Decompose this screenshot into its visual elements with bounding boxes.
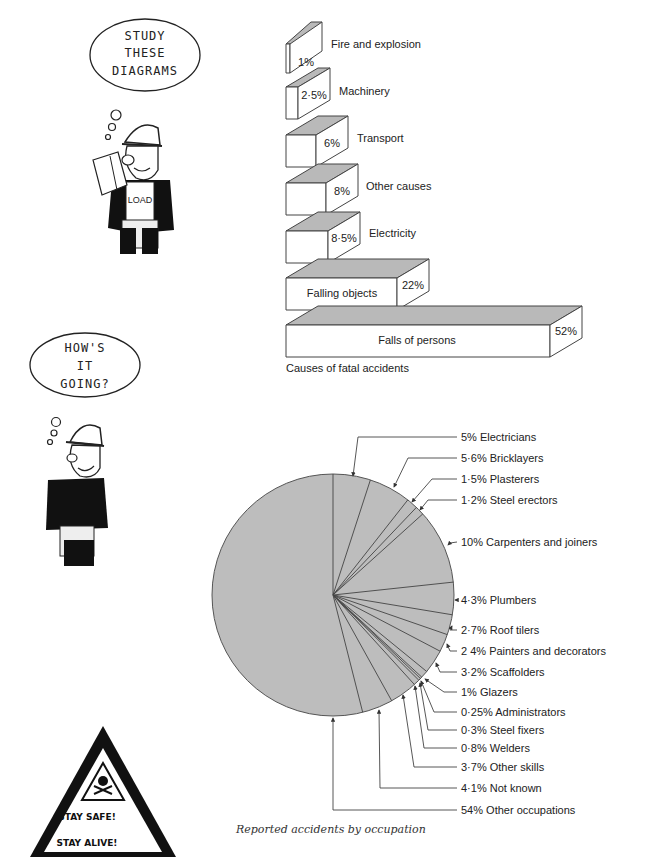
pie-label-plumbers: 4·3% Plumbers	[461, 594, 537, 606]
pie-label-plasterers: 1·5% Plasterers	[461, 473, 540, 485]
bar-value-electricity: 8·5%	[331, 232, 357, 244]
bar-value-machinery: 2·5%	[301, 89, 327, 101]
bar-value-falling-objects: 22%	[402, 279, 424, 291]
pie-label-other-skills: 3·7% Other skills	[461, 761, 545, 773]
bar-label-fire: Fire and explosion	[331, 38, 421, 50]
pie-label-steel-fixers: 0·3% Steel fixers	[461, 724, 545, 736]
bar-label-falls-of-persons: Falls of persons	[378, 334, 456, 346]
pie-label-not-known: 4·1% Not known	[461, 782, 542, 794]
bar-value-transport: 6%	[324, 137, 340, 149]
bar-label-falling-objects: Falling objects	[307, 287, 378, 299]
pie-label-other-occupations: 54% Other occupations	[461, 804, 576, 816]
pie-label-welders: 0·8% Welders	[461, 742, 530, 754]
bar-label-transport: Transport	[357, 132, 404, 144]
bar-value-falls-of-persons: 52%	[555, 325, 577, 337]
pie-label-scaffolders: 3·2% Scaffolders	[461, 666, 545, 678]
pie-label-bricklayers: 5·6% Bricklayers	[461, 452, 544, 464]
bar-label-machinery: Machinery	[339, 85, 390, 97]
pie-label-steel-erectors: 1·2% Steel erectors	[461, 494, 558, 506]
bar-chart-fatal-accidents: 1% 2·5% 6% 8% 8·5% 22% 52% Fire and expl…	[0, 0, 666, 400]
pie-label-painters: 2 4% Painters and decorators	[461, 645, 606, 657]
bar-value-other-causes: 8%	[334, 185, 350, 197]
pie-label-administrators: 0·25% Administrators	[461, 706, 566, 718]
pie-chart-caption: Reported accidents by occupation	[236, 823, 426, 836]
bar-label-electricity: Electricity	[369, 227, 417, 239]
bar-chart-caption: Causes of fatal accidents	[286, 362, 409, 374]
bar-falls-of-persons	[286, 306, 582, 357]
bar-label-other-causes: Other causes	[366, 180, 432, 192]
pie-label-roof-tilers: 2·7% Roof tilers	[461, 624, 540, 636]
bar-value-fire: 1%	[298, 56, 314, 68]
pie-label-carpenters: 10% Carpenters and joiners	[461, 536, 598, 548]
pie-label-glazers: 1% Glazers	[461, 686, 518, 698]
pie-label-electricians: 5% Electricians	[461, 431, 537, 443]
pie-chart-accidents-by-occupation: 5% Electricians 5·6% Bricklayers 1·5% Pl…	[0, 400, 666, 857]
